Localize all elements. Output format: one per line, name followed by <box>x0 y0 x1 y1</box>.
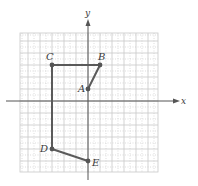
y-axis-arrow-icon <box>86 19 91 26</box>
points: ABCDE <box>39 51 105 168</box>
point-label-d: D <box>39 143 48 154</box>
x-axis-label: x <box>181 96 186 106</box>
point-label-a: A <box>77 83 85 94</box>
point-e <box>86 159 91 164</box>
point-b <box>98 63 103 68</box>
y-axis-label: y <box>84 8 91 18</box>
point-c <box>50 63 55 68</box>
point-label-c: C <box>46 51 54 62</box>
point-label-b: B <box>97 51 105 62</box>
point-d <box>50 147 55 152</box>
axes: x y <box>6 8 186 180</box>
x-axis-arrow-icon <box>173 99 180 104</box>
point-label-e: E <box>91 157 100 168</box>
coordinate-plane: x y ABCDE <box>0 0 198 186</box>
point-a <box>86 87 91 92</box>
